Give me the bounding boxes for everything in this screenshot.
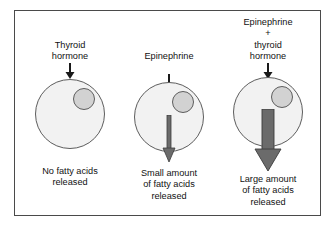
small-down-arrow-icon [162, 115, 176, 162]
panel-caption: Large amount of fatty acids released [216, 174, 320, 208]
large-down-arrow-icon [253, 109, 283, 171]
nucleus-icon [172, 91, 194, 113]
panel-thyroid-hormone: Thyroid hormone No fatty acids released [18, 11, 122, 215]
cell-circle-icon [35, 79, 105, 149]
panel-caption: Small amount of fatty acids released [117, 168, 221, 202]
panel-caption: No fatty acids released [18, 166, 122, 189]
panel-epinephrine-plus-thyroid-hormone: Epinephrine + thyroid hormone Large amou… [216, 11, 320, 215]
stimulus-label: Epinephrine + thyroid hormone [216, 17, 320, 63]
figure-root: Thyroid hormone No fatty acids released … [0, 0, 336, 231]
nucleus-icon [271, 86, 293, 108]
down-arrow-icon [64, 63, 76, 79]
nucleus-icon [73, 88, 95, 110]
figure-frame: Thyroid hormone No fatty acids released … [14, 10, 321, 216]
panel-epinephrine: Epinephrine Small amount of fatty acids … [117, 11, 221, 215]
stimulus-label: Thyroid hormone [18, 40, 122, 63]
stimulus-label: Epinephrine [117, 51, 221, 62]
